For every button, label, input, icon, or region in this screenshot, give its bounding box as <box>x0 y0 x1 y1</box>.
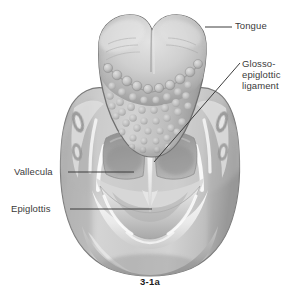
label-epiglottis: Epiglottis <box>11 203 51 214</box>
label-tongue: Tongue <box>235 20 267 31</box>
label-glossoepiglottic-line3: ligament <box>242 80 300 91</box>
label-glossoepiglottic-ligament: Glosso- epiglottic ligament <box>242 58 300 91</box>
figure-container: Tongue Glosso- epiglottic ligament Valle… <box>0 0 300 299</box>
label-glossoepiglottic-line1: Glosso- <box>242 58 300 69</box>
label-vallecula: Vallecula <box>14 166 53 177</box>
label-glossoepiglottic-line2: epiglottic <box>242 69 300 80</box>
figure-caption: 3-1a <box>0 276 300 287</box>
anatomy-illustration <box>0 0 300 299</box>
